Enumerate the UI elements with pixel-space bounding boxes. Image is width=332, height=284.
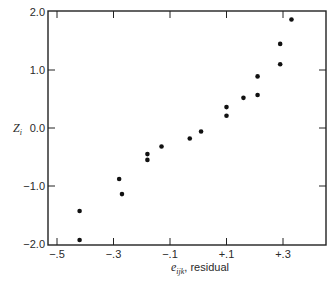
data-point <box>278 62 283 67</box>
x-tick-label: −.5 <box>49 248 65 260</box>
data-point <box>241 96 246 101</box>
x-tick-label: +.1 <box>219 248 235 260</box>
y-tick-labels: 2.01.00.0−1.0−2.0 <box>23 6 45 250</box>
x-tick-label: −.1 <box>162 248 178 260</box>
data-point <box>145 158 150 163</box>
data-point <box>117 177 122 182</box>
x-tick-labels: −.5−.3−.1+.1+.3 <box>49 248 291 260</box>
scatter-chart: −.5−.3−.1+.1+.3 2.01.00.0−1.0−2.0 Zi eij… <box>0 0 332 284</box>
axis-ticks <box>48 11 326 245</box>
data-point <box>120 192 125 197</box>
data-point <box>187 136 192 141</box>
data-point <box>77 238 82 243</box>
data-point <box>77 209 82 214</box>
data-points <box>77 17 293 242</box>
y-axis-title: Zi <box>13 121 22 137</box>
data-point <box>255 74 260 79</box>
y-tick-label: −2.0 <box>23 238 45 250</box>
data-point <box>289 17 294 22</box>
data-point <box>224 114 229 119</box>
data-point <box>159 144 164 149</box>
y-tick-label: 0.0 <box>30 122 45 134</box>
data-point <box>278 42 283 47</box>
plot-frame <box>48 11 326 245</box>
plot-border <box>48 11 326 245</box>
x-tick-label: −.3 <box>106 248 122 260</box>
data-point <box>224 105 229 110</box>
data-point <box>199 129 204 134</box>
y-tick-label: −1.0 <box>23 180 45 192</box>
x-tick-label: +.3 <box>275 248 291 260</box>
data-point <box>255 93 260 98</box>
data-point <box>145 152 150 157</box>
y-tick-label: 2.0 <box>30 6 45 18</box>
y-tick-label: 1.0 <box>30 64 45 76</box>
x-axis-title: eijk, residual <box>171 260 229 276</box>
